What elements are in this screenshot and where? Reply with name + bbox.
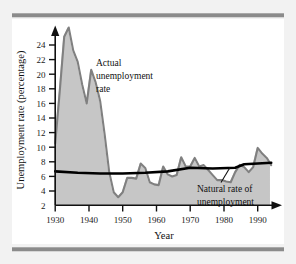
y-tick-label-2: 2 [41,201,46,211]
natural-rate-annotation-line-1: Natural rate of [197,184,253,194]
actual-rate-annotation-line-1: Actual [96,58,122,68]
y-tick-label-12: 12 [37,128,46,138]
y-tick-label-14: 14 [37,113,47,123]
x-axis-arrowhead [272,201,283,209]
y-tick-label-16: 16 [37,99,47,109]
x-tick-label-1980: 1980 [215,215,234,225]
natural-rate-annotation-line-2: unemployment [197,197,254,207]
x-tick-label-1950: 1950 [114,215,133,225]
y-tick-label-20: 20 [37,70,47,80]
x-axis-title: Year [154,230,174,241]
y-axis-title: Unemployment rate (percentage) [15,50,27,189]
actual-rate-annotation-line-3: rate [96,84,110,94]
x-tick-label-1960: 1960 [148,215,167,225]
y-tick-label-22: 22 [37,55,46,65]
y-tick-label-10: 10 [37,143,47,153]
figure-plate: 24 22 20 18 16 14 12 10 8 6 4 2 193 [0,0,296,264]
top-divider-rule [12,13,284,18]
x-tick-label-1990: 1990 [249,215,268,225]
x-tick-label-1970: 1970 [181,215,200,225]
y-tick-label-18: 18 [37,84,47,94]
chart-card: 24 22 20 18 16 14 12 10 8 6 4 2 193 [12,19,284,244]
bottom-divider-rule [12,247,284,252]
unemployment-rate-chart: 24 22 20 18 16 14 12 10 8 6 4 2 193 [12,19,284,244]
x-tick-label-1930: 1930 [46,215,64,225]
y-tick-label-6: 6 [41,172,46,182]
x-tick-label-1940: 1940 [80,215,99,225]
actual-rate-area [54,28,270,206]
y-tick-label-8: 8 [41,157,46,167]
y-tick-label-4: 4 [41,186,46,196]
y-axis-arrowhead [51,26,59,37]
actual-rate-annotation-line-2: unemployment [96,71,153,81]
y-tick-label-24: 24 [37,40,47,50]
